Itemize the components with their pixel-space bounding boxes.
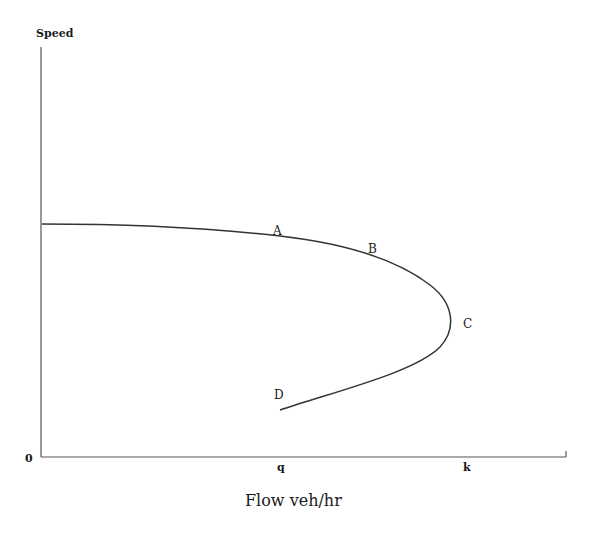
- x-axis-label: Flow veh/hr: [245, 491, 342, 510]
- point-label-b: B: [368, 242, 377, 256]
- x-tick-q: q: [277, 461, 285, 474]
- point-label-d: D: [274, 388, 284, 402]
- point-label-a: A: [272, 224, 282, 238]
- point-label-c: C: [463, 317, 472, 331]
- speed-flow-chart: Speed 0 q k Flow veh/hr A B C D: [0, 0, 593, 533]
- origin-label: 0: [25, 452, 33, 465]
- y-axis-label: Speed: [36, 27, 74, 40]
- x-tick-k: k: [463, 461, 471, 474]
- speed-flow-curve: [42, 224, 451, 410]
